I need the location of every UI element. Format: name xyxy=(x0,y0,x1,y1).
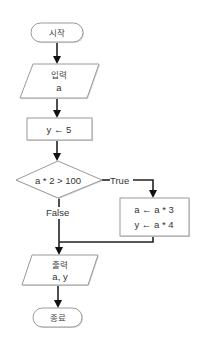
true-block-node: a ← a * 3 y ← a * 4 xyxy=(120,198,190,237)
decision-label: a * 2 > 100 xyxy=(35,175,81,186)
assign-label: y ← 5 xyxy=(47,124,72,135)
output-node: 출력 a, y xyxy=(22,255,99,286)
true-label: True xyxy=(110,175,129,186)
output-variables: a, y xyxy=(52,271,68,282)
input-variable: a xyxy=(56,82,62,93)
output-label: 출력 xyxy=(52,260,68,270)
start-node: 시작 xyxy=(31,23,84,43)
end-node: 종료 xyxy=(33,308,83,328)
start-label: 시작 xyxy=(49,28,65,38)
decision-node: a * 2 > 100 xyxy=(16,161,103,199)
true-line-b xyxy=(133,180,153,196)
assign-node: y ← 5 xyxy=(27,118,93,141)
input-node: 입력 a xyxy=(20,64,100,99)
flowchart: 시작 입력 a y ← 5 a * 2 > 100 True False a ←… xyxy=(0,0,199,347)
false-label: False xyxy=(46,207,69,218)
end-label: 종료 xyxy=(50,313,66,323)
true-block-line1: a ← a * 3 xyxy=(134,204,174,215)
input-label: 입력 xyxy=(51,70,67,80)
true-block-line2: y ← a * 4 xyxy=(134,219,173,230)
